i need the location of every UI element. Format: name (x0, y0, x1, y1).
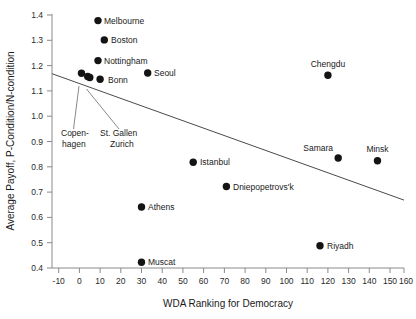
data-point-bonn[interactable] (96, 76, 103, 83)
y-tick-label: 1.0 (31, 111, 43, 121)
y-tick-label: 0.9 (31, 137, 43, 147)
point-label-zurich: Zurich (110, 139, 134, 149)
x-tick-label: 140 (362, 276, 376, 286)
data-point-nottingham[interactable] (94, 57, 101, 64)
y-tick-label: 0.5 (31, 238, 43, 248)
y-axis-ticks: 1.4 1.3 1.2 1.1 1.0 0.9 0.8 0.7 0.6 0.5 … (31, 10, 52, 273)
stgallen-zurich-leader-line (87, 89, 120, 129)
point-label-seoul: Seoul (154, 68, 176, 78)
y-tick-label: 0.6 (31, 212, 43, 222)
copenhagen-leader-line (74, 86, 80, 129)
x-tick-label: -10 (53, 276, 66, 286)
x-tick-label: 70 (220, 276, 230, 286)
x-tick-label: 30 (137, 276, 147, 286)
y-tick-label: 1.1 (31, 86, 43, 96)
y-axis-title: Average Payoff, P-Condition/N-condition (5, 51, 16, 230)
scatter-chart: 1.4 1.3 1.2 1.1 1.0 0.9 0.8 0.7 0.6 0.5 … (0, 0, 416, 319)
data-point-chengdu[interactable] (324, 72, 331, 79)
y-tick-label: 1.2 (31, 61, 43, 71)
point-label-athens: Athens (148, 202, 174, 212)
x-axis-ticks: -10 0 10 20 30 40 50 60 70 80 90 100 110… (53, 268, 414, 286)
x-tick-label: 150 (383, 276, 397, 286)
x-tick-label: 110 (300, 276, 314, 286)
data-point-muscat[interactable] (138, 259, 145, 266)
x-tick-label: 100 (279, 276, 293, 286)
point-label-bonn: Bonn (108, 75, 128, 85)
y-tick-label: 1.4 (31, 10, 43, 20)
axes (52, 14, 404, 268)
data-point-dniepopetrovsk[interactable] (223, 183, 230, 190)
leader-lines (74, 86, 120, 129)
point-label-copenhagen-line1: Copen- (61, 128, 89, 138)
x-tick-label: 40 (157, 276, 167, 286)
data-point-athens[interactable] (138, 203, 145, 210)
point-label-melbourne: Melbourne (104, 16, 144, 26)
point-label-istanbul: Istanbul (200, 157, 230, 167)
x-axis-title: WDA Ranking for Democracy (163, 298, 293, 309)
x-tick-label: 120 (321, 276, 335, 286)
plot-area: 1.4 1.3 1.2 1.1 1.0 0.9 0.8 0.7 0.6 0.5 … (0, 0, 416, 319)
point-label-dniepopetrovsk: Dniepopetrovs'k (233, 182, 294, 192)
x-tick-label: 80 (240, 276, 250, 286)
data-point-minsk[interactable] (374, 157, 381, 164)
point-label-samara: Samara (303, 143, 333, 153)
data-point-samara[interactable] (335, 154, 342, 161)
y-tick-label: 0.7 (31, 187, 43, 197)
x-tick-label: 20 (116, 276, 126, 286)
point-label-nottingham: Nottingham (104, 56, 147, 66)
data-point-riyadh[interactable] (316, 242, 323, 249)
x-tick-label: 90 (261, 276, 271, 286)
x-tick-label: 130 (342, 276, 356, 286)
point-label-minsk: Minsk (366, 144, 389, 154)
point-label-boston: Boston (111, 35, 138, 45)
point-label-chengdu: Chengdu (311, 59, 346, 69)
x-tick-label: 60 (199, 276, 209, 286)
x-tick-label: 0 (77, 276, 82, 286)
data-point-seoul[interactable] (144, 69, 151, 76)
data-point-zurich[interactable] (86, 74, 93, 81)
point-labels: Melbourne Boston Nottingham Bonn Seoul C… (61, 16, 389, 268)
point-label-stgallen: St. Gallen (100, 128, 138, 138)
data-point-melbourne[interactable] (94, 17, 101, 24)
data-point-istanbul[interactable] (190, 159, 197, 166)
y-tick-label: 1.3 (31, 35, 43, 45)
x-tick-label: 160 (399, 276, 413, 286)
point-label-copenhagen-line2: hagen (62, 139, 86, 149)
y-tick-label: 0.4 (31, 263, 43, 273)
point-label-riyadh: Riyadh (327, 241, 354, 251)
x-tick-label: 50 (178, 276, 188, 286)
data-point-boston[interactable] (101, 36, 108, 43)
y-tick-label: 0.8 (31, 162, 43, 172)
x-tick-label: 10 (95, 276, 105, 286)
point-label-muscat: Muscat (148, 257, 176, 267)
